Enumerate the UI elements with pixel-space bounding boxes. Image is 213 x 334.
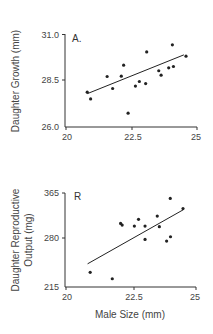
chart-a-ytick: 26.0: [41, 122, 59, 132]
data-point: [106, 75, 109, 78]
data-point: [181, 207, 184, 210]
chart-b-ytick: 215: [44, 282, 59, 292]
chart-b-ylabel-line2: Output (mg): [23, 213, 34, 266]
data-point: [86, 91, 89, 94]
data-point: [156, 214, 159, 217]
chart-a-xtick: 25: [191, 132, 201, 142]
data-point: [157, 69, 160, 72]
data-point: [143, 224, 146, 227]
regression-line: [88, 210, 183, 264]
data-point: [122, 64, 125, 67]
chart-b-ytick: 365: [44, 188, 59, 198]
regression-line: [87, 55, 184, 94]
data-point: [126, 112, 129, 115]
data-point: [169, 197, 172, 200]
chart-b-xtick: 22.5: [125, 292, 143, 302]
data-point: [145, 50, 148, 53]
chart-a-panel-label: A.: [72, 33, 81, 44]
data-point: [172, 65, 175, 68]
data-point: [120, 75, 123, 78]
data-point: [134, 85, 137, 88]
chart-b-ytick: 280: [44, 233, 59, 243]
chart-a-xtick: 22.5: [124, 132, 142, 142]
figure: Daughter Growth (mm) 31.0 28.5 26.0 20 2…: [0, 0, 213, 334]
data-point: [111, 277, 114, 280]
chart-a-xtick: 20: [62, 132, 72, 142]
data-point: [144, 82, 147, 85]
data-point: [169, 235, 172, 238]
data-point: [184, 55, 187, 58]
data-point: [121, 223, 124, 226]
chart-a: Daughter Growth (mm) 31.0 28.5 26.0 20 2…: [10, 30, 201, 142]
data-point: [138, 80, 141, 83]
data-point: [165, 239, 168, 242]
data-point: [167, 66, 170, 69]
chart-b-plot-area: [88, 197, 185, 281]
chart-b-ylabel-line1: Daughter Reproductive: [10, 188, 21, 291]
data-point: [143, 238, 146, 241]
data-point: [133, 224, 136, 227]
data-point: [171, 43, 174, 46]
chart-a-ytick: 28.5: [41, 75, 59, 85]
chart-b-xtick: 20: [62, 292, 72, 302]
chart-b-xlabel: Male Size (mm): [95, 309, 165, 320]
chart-b-panel-label: R: [74, 191, 81, 202]
data-point: [89, 271, 92, 274]
chart-a-ylabel: Daughter Growth (mm): [10, 30, 21, 132]
data-point: [160, 74, 163, 77]
chart-a-ytick: 31.0: [41, 30, 59, 40]
data-point: [158, 225, 161, 228]
chart-b-xtick: 25: [190, 292, 200, 302]
chart-b: Daughter Reproductive Output (mg) 365 28…: [10, 188, 200, 320]
data-point: [137, 218, 140, 221]
chart-a-plot-area: [86, 43, 188, 114]
data-point: [89, 97, 92, 100]
data-point: [111, 87, 114, 90]
